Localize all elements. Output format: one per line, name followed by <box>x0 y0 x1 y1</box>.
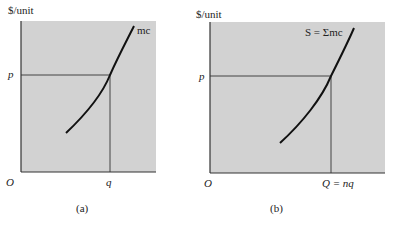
panel-b-caption: (b) <box>270 202 283 215</box>
panel-b-price-label: p <box>198 70 205 82</box>
panel-a-caption: (a) <box>76 202 89 215</box>
panel-b-quantity-label: Q = nq <box>322 177 354 189</box>
panel-a-origin-label: O <box>6 176 14 188</box>
panel-a: $/unit p O q mc (a) <box>6 4 156 215</box>
panel-b-plot-area <box>210 22 385 173</box>
panel-b-curve-label: S = Σmc <box>305 26 343 38</box>
panel-a-quantity-label: q <box>106 176 112 188</box>
panel-b: $/unit p O Q = nq S = Σmc (b) <box>196 8 385 215</box>
panel-b-origin-label: O <box>204 177 212 189</box>
panel-a-plot-area <box>21 21 156 172</box>
panel-b-y-axis-label: $/unit <box>196 8 222 20</box>
panel-a-price-label: p <box>7 68 14 80</box>
diagram: $/unit p O q mc (a) $/unit p O Q = nq S … <box>0 0 393 225</box>
panel-a-curve-label: mc <box>137 24 151 36</box>
panel-a-y-axis-label: $/unit <box>8 4 34 16</box>
